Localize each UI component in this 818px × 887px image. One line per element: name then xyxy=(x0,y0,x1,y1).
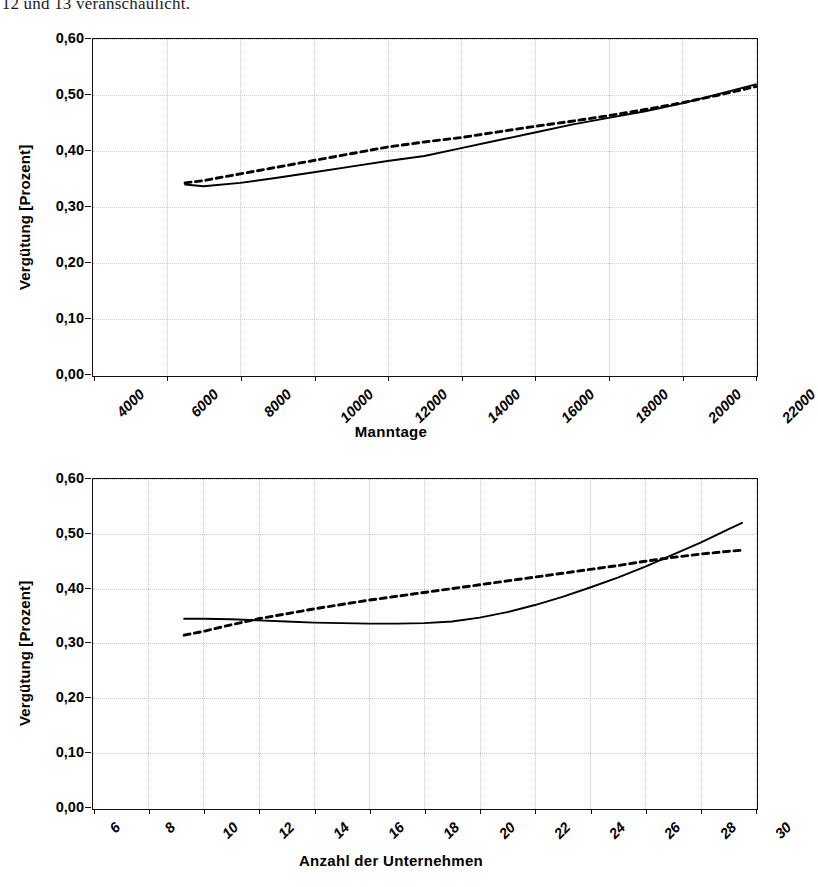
y-tick-label: 0,00 xyxy=(26,367,84,382)
x-tick-mark xyxy=(535,376,536,381)
x-tick-label: 12000 xyxy=(410,386,450,426)
x-tick-label: 6 xyxy=(106,819,123,836)
x-tick-mark xyxy=(94,809,95,814)
x-tick-mark xyxy=(149,809,150,814)
plot-area-manntage xyxy=(92,38,758,377)
x-tick-mark xyxy=(462,376,463,381)
y-tick-mark xyxy=(85,374,91,375)
x-tick-label: 8000 xyxy=(261,386,295,420)
x-tick-mark xyxy=(204,809,205,814)
y-tick-label: 0,30 xyxy=(26,635,84,650)
x-tick-label: 16000 xyxy=(558,386,598,426)
x-tick-mark xyxy=(370,809,371,814)
x-tick-label: 28 xyxy=(716,819,739,842)
data-series-layer xyxy=(93,479,758,810)
y-tick-mark xyxy=(85,588,91,589)
x-tick-mark xyxy=(425,809,426,814)
x-tick-mark xyxy=(535,809,536,814)
y-tick-mark xyxy=(85,807,91,808)
y-tick-label: 0,30 xyxy=(26,199,84,214)
x-tick-label: 22000 xyxy=(779,386,818,426)
figure-unternehmen: Vergütung [Prozent] 0,600,500,400,300,20… xyxy=(0,460,782,887)
y-tick-label: 0,10 xyxy=(26,745,84,760)
series-dotted-line xyxy=(185,87,756,183)
y-tick-mark xyxy=(85,262,91,263)
x-tick-mark xyxy=(167,376,168,381)
x-tick-label: 8 xyxy=(162,819,179,836)
y-tick-mark xyxy=(85,642,91,643)
x-tick-mark xyxy=(756,809,757,814)
y-axis-tick-labels-2: 0,600,500,400,300,200,100,00 xyxy=(26,478,84,810)
x-tick-mark xyxy=(94,376,95,381)
x-tick-label: 12 xyxy=(274,819,297,842)
x-tick-mark xyxy=(683,376,684,381)
x-tick-label: 16 xyxy=(385,819,408,842)
series-dotted-line xyxy=(184,550,742,635)
x-tick-mark xyxy=(241,376,242,381)
y-tick-label: 0,40 xyxy=(26,143,84,158)
y-tick-mark xyxy=(85,697,91,698)
y-tick-label: 0,50 xyxy=(26,526,84,541)
y-tick-label: 0,50 xyxy=(26,87,84,102)
y-tick-label: 0,20 xyxy=(26,690,84,705)
x-tick-mark xyxy=(388,376,389,381)
y-tick-label: 0,60 xyxy=(26,31,84,46)
x-tick-mark xyxy=(315,376,316,381)
data-series-layer xyxy=(93,39,758,377)
x-tick-mark xyxy=(259,809,260,814)
x-tick-mark xyxy=(646,809,647,814)
x-tick-label: 22 xyxy=(551,819,574,842)
x-tick-label: 18000 xyxy=(631,386,671,426)
series-solid-line xyxy=(184,523,742,624)
x-tick-label: 14000 xyxy=(484,386,524,426)
x-tick-label: 20000 xyxy=(705,386,745,426)
plot-area-unternehmen xyxy=(92,478,758,810)
y-tick-mark xyxy=(85,478,91,479)
y-tick-label: 0,10 xyxy=(26,311,84,326)
y-tick-label: 0,40 xyxy=(26,580,84,595)
x-tick-mark xyxy=(480,809,481,814)
x-tick-label: 14 xyxy=(330,819,353,842)
x-tick-mark xyxy=(609,376,610,381)
x-tick-mark xyxy=(591,809,592,814)
y-tick-mark xyxy=(85,94,91,95)
y-tick-mark xyxy=(85,533,91,534)
y-tick-label: 0,00 xyxy=(26,800,84,815)
y-tick-mark xyxy=(85,752,91,753)
y-tick-mark xyxy=(85,206,91,207)
x-tick-label: 4000 xyxy=(113,386,147,420)
x-tick-label: 10000 xyxy=(337,386,377,426)
y-tick-label: 0,20 xyxy=(26,255,84,270)
x-tick-mark xyxy=(315,809,316,814)
x-tick-label: 24 xyxy=(606,819,629,842)
x-tick-label: 18 xyxy=(440,819,463,842)
x-tick-label: 6000 xyxy=(187,386,221,420)
x-tick-label: 10 xyxy=(219,819,242,842)
y-tick-mark xyxy=(85,318,91,319)
x-axis-title-2: Anzahl der Unternehmen xyxy=(0,852,782,869)
page-body-text: mmen 12 und 13 veranschaulicht. xyxy=(0,0,782,16)
body-text-line: mmen 12 und 13 veranschaulicht. xyxy=(0,0,782,14)
x-tick-mark xyxy=(756,376,757,381)
y-tick-mark xyxy=(85,38,91,39)
x-tick-mark xyxy=(701,809,702,814)
x-tick-label: 30 xyxy=(772,819,795,842)
x-axis-title-1: Manntage xyxy=(0,423,782,440)
x-tick-label: 20 xyxy=(495,819,518,842)
y-axis-tick-labels-1: 0,600,500,400,300,200,100,00 xyxy=(26,38,84,377)
y-tick-mark xyxy=(85,150,91,151)
y-tick-label: 0,60 xyxy=(26,471,84,486)
figure-manntage: Vergütung [Prozent] 0,600,500,400,300,20… xyxy=(0,20,782,465)
x-tick-label: 26 xyxy=(661,819,684,842)
